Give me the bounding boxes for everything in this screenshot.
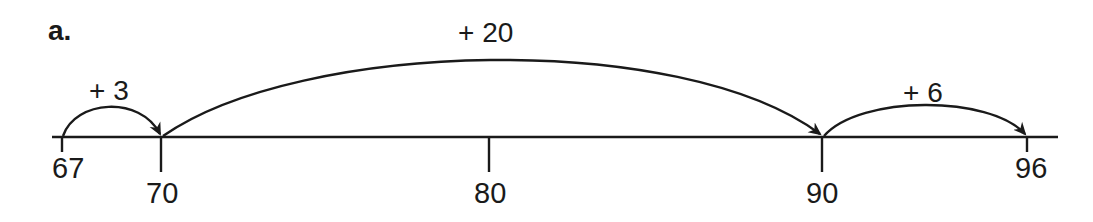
tick-label-96: 96 — [1015, 152, 1047, 184]
tick-label-67: 67 — [52, 152, 84, 184]
jump-arrow-plus-3 — [63, 107, 160, 136]
jump-label-plus-20: + 20 — [458, 17, 513, 48]
tick-label-70: 70 — [146, 177, 178, 209]
jump-arrow-plus-20 — [163, 60, 820, 136]
tick-label-90: 90 — [806, 177, 838, 209]
jump-label-plus-3: + 3 — [89, 75, 129, 106]
jump-label-plus-6: + 6 — [903, 77, 943, 108]
tick-label-80: 80 — [474, 177, 506, 209]
jump-arrow-plus-6 — [824, 105, 1025, 136]
number-line-diagram: a. 67 70 80 90 96 + 3 + 20 + 6 — [0, 0, 1093, 222]
part-label: a. — [48, 15, 71, 46]
